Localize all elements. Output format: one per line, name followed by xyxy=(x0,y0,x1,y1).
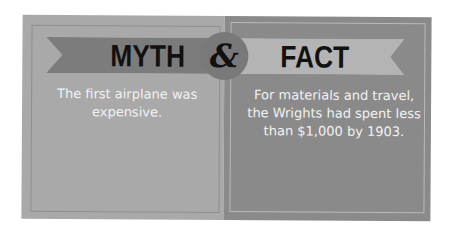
fact-ribbon: FACT xyxy=(234,38,404,75)
fact-title: FACT xyxy=(280,38,349,74)
fact-statement: For materials and travel, the Wrights ha… xyxy=(244,86,424,141)
myth-fact-card: MYTH FACT & The first airplane was expen… xyxy=(21,15,431,221)
myth-statement: The first airplane was expensive. xyxy=(32,85,222,122)
ampersand-badge: & xyxy=(200,32,248,80)
ampersand-icon: & xyxy=(200,32,248,80)
myth-title: MYTH xyxy=(110,37,185,73)
